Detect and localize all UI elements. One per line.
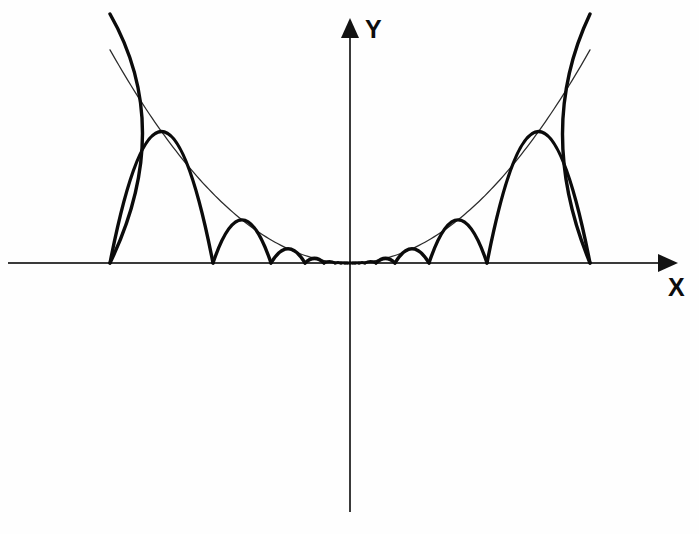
arc-left-2: [213, 220, 271, 263]
arc-outer-left-branch: [110, 14, 143, 263]
arc-right-5: [365, 261, 376, 263]
arc-right-1: [487, 132, 590, 263]
arc-right-3: [395, 249, 429, 263]
figure-canvas: Y X: [0, 0, 699, 534]
y-axis-label: Y: [365, 15, 382, 43]
y-axis-arrowhead: [341, 18, 359, 38]
x-axis-arrowhead: [658, 254, 678, 272]
arc-left-5: [324, 261, 335, 263]
parabolic-envelope-figure: Y X: [0, 0, 699, 534]
arc-outer-right-branch: [563, 14, 591, 263]
axes-group: [8, 18, 678, 512]
x-axis-label: X: [668, 273, 685, 301]
arc-left-1: [110, 132, 213, 263]
arc-left-3: [271, 249, 305, 263]
arc-right-2: [429, 220, 487, 263]
